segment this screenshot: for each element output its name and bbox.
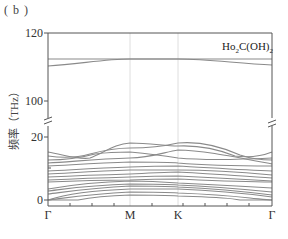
low-frequency-bands [48,143,272,200]
axis-break-left [44,117,52,124]
y-tick-100: 100 [25,94,43,108]
x-label-gamma-start: Γ [45,208,52,222]
x-label-gamma-end: Γ [269,208,276,222]
y-tick-120: 120 [25,26,43,40]
band-structure-chart: 120 100 20 0 Γ M K Γ Ho2C(OH)2 [0,0,288,239]
y-tick-0: 0 [37,193,43,207]
x-label-K: K [174,208,183,222]
compound-annotation: Ho2C(OH)2 [222,40,274,55]
x-label-M: M [125,208,136,222]
high-frequency-bands [48,59,272,66]
y-tick-20: 20 [31,130,43,144]
axis-break-right [268,120,276,127]
